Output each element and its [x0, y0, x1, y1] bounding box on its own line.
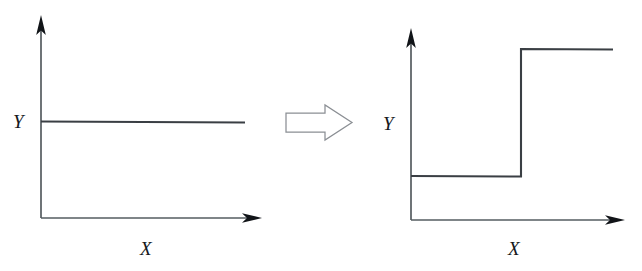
right-x-axis-label: X	[507, 238, 521, 259]
left-constant-data-line	[41, 122, 245, 123]
figure-root: Y X Y X	[0, 0, 642, 271]
right-panel-step-function: Y X	[383, 28, 625, 259]
transformation-diagram: Y X Y X	[0, 0, 642, 271]
right-y-axis-label: Y	[383, 113, 396, 134]
left-y-axis-label: Y	[13, 111, 26, 132]
right-step-data-line	[411, 49, 613, 177]
rightwards-transform-arrow-icon	[286, 105, 352, 140]
left-x-axis-label: X	[139, 238, 153, 259]
transform-arrow-group	[286, 105, 352, 140]
left-panel-constant-function: Y X	[13, 15, 262, 259]
